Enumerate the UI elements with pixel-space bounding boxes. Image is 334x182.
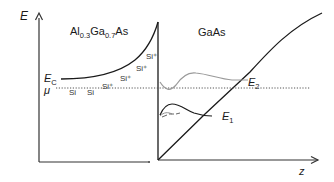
band-diagram: E z Al0.3Ga0.7As GaAs EC μ E2 E1 Si⁺ Si⁺… [0, 0, 334, 182]
dopant-neutral: Si [69, 88, 76, 97]
conduction-band-gaas [158, 13, 322, 160]
axes: E z [20, 9, 318, 177]
dopant-ionized: Si⁺ [146, 52, 157, 61]
x-axis-label: z [298, 165, 305, 177]
algaas-label: Al0.3Ga0.7As [70, 25, 129, 40]
dopant-ionized: Si⁺ [136, 64, 147, 73]
e2-label: E2 [248, 76, 260, 91]
dopant-ionized: Si⁺ [102, 82, 113, 91]
gaas-label: GaAs [198, 26, 226, 38]
mu-label: μ [43, 84, 50, 96]
e1-label: E1 [222, 110, 234, 125]
y-axis-label: E [20, 9, 29, 23]
dopant-neutral: Si [87, 88, 94, 97]
dopant-ionized: Si⁺ [120, 74, 131, 83]
